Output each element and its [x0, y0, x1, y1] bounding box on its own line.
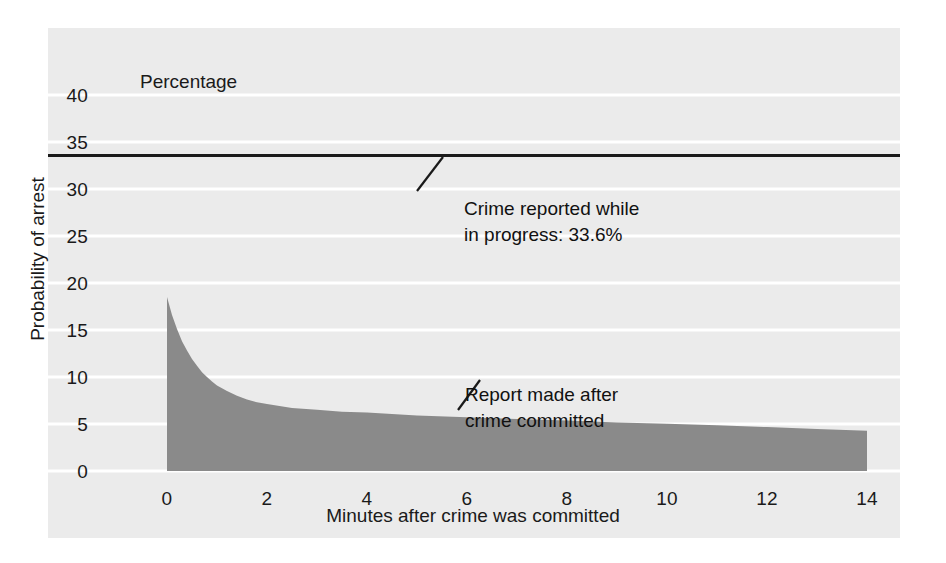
annotation-after-line2: crime committed [465, 408, 618, 434]
y-tick-label-15: 15 [44, 320, 88, 342]
x-axis-title: Minutes after crime was committed [0, 505, 946, 527]
y-tick-label-35: 35 [44, 132, 88, 154]
annotation-crime-reported-in-progress: Crime reported while in progress: 33.6% [464, 196, 639, 248]
y-tick-label-40: 40 [44, 85, 88, 107]
annotation-report-made-after-crime: Report made after crime committed [465, 382, 618, 434]
chart-plot-svg [48, 28, 900, 538]
y-tick-label-5: 5 [44, 414, 88, 436]
y-axis-units-label: Percentage [140, 71, 237, 93]
y-axis-title: Probability of arrest [27, 159, 49, 359]
annotation-reported-line2: in progress: 33.6% [464, 222, 639, 248]
annotation-after-line1: Report made after [465, 382, 618, 408]
y-tick-label-30: 30 [44, 179, 88, 201]
y-tick-label-0: 0 [44, 461, 88, 483]
y-tick-label-10: 10 [44, 367, 88, 389]
chart-plot-panel: Percentage 40 35 30 25 20 15 10 5 0 0 2 … [48, 28, 900, 538]
y-tick-label-25: 25 [44, 226, 88, 248]
annotation-leader-reported [417, 157, 443, 191]
y-tick-label-20: 20 [44, 273, 88, 295]
chart-figure: Percentage 40 35 30 25 20 15 10 5 0 0 2 … [0, 0, 946, 563]
annotation-reported-line1: Crime reported while [464, 196, 639, 222]
